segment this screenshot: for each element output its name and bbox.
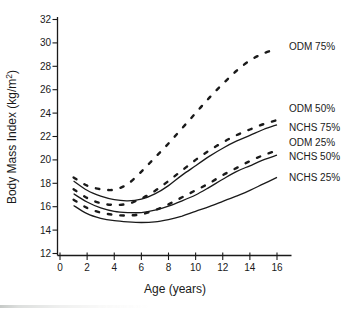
series-label-odm-75: ODM 75% — [289, 41, 335, 52]
x-tick-label: 10 — [190, 262, 202, 273]
x-tick-label: 6 — [139, 262, 145, 273]
y-tick-label: 20 — [40, 154, 52, 165]
y-tick-label: 14 — [40, 225, 52, 236]
x-axis-label: Age (years) — [144, 282, 206, 296]
figure-page: 02468101214161214161820222426283032 ODM … — [0, 0, 348, 311]
series-line-odm-75 — [74, 49, 277, 190]
bmi-growth-chart: 02468101214161214161820222426283032 ODM … — [0, 0, 348, 311]
y-tick-label: 18 — [40, 178, 52, 189]
y-tick-label: 24 — [40, 108, 52, 119]
series-label-odm-50: ODM 50% — [289, 103, 335, 114]
series-label-nchs-75: NCHS 75% — [289, 122, 340, 133]
y-tick-label: 12 — [40, 248, 52, 259]
curve-series — [74, 49, 277, 223]
y-axis-label-suffix: ) — [5, 70, 19, 74]
y-tick-label: 28 — [40, 61, 52, 72]
series-line-nchs-25 — [74, 177, 277, 222]
y-tick-label: 22 — [40, 131, 52, 142]
y-tick-label: 16 — [40, 201, 52, 212]
y-axis-label-prefix: Body Mass Index (kg/m — [5, 79, 19, 204]
series-label-odm-25: ODM 25% — [289, 137, 335, 148]
y-axis-label: Body Mass Index (kg/m2) — [4, 70, 19, 204]
x-tick-label: 16 — [271, 262, 283, 273]
x-tick-label: 2 — [84, 262, 90, 273]
x-tick-label: 0 — [57, 262, 63, 273]
x-tick-label: 12 — [217, 262, 229, 273]
curve-labels: ODM 75%ODM 50%NCHS 75%ODM 25%NCHS 50%NCH… — [289, 41, 340, 183]
y-tick-label: 30 — [40, 37, 52, 48]
axes: 02468101214161214161820222426283032 — [40, 14, 292, 273]
cropped-caption-artifact — [0, 305, 150, 308]
series-label-nchs-25: NCHS 25% — [289, 172, 340, 183]
x-tick-label: 4 — [111, 262, 117, 273]
x-tick-label: 8 — [166, 262, 172, 273]
x-tick-label: 14 — [244, 262, 256, 273]
series-line-odm-25 — [74, 151, 277, 216]
y-tick-label: 32 — [40, 14, 52, 25]
series-label-nchs-50: NCHS 50% — [289, 151, 340, 162]
y-tick-label: 26 — [40, 84, 52, 95]
